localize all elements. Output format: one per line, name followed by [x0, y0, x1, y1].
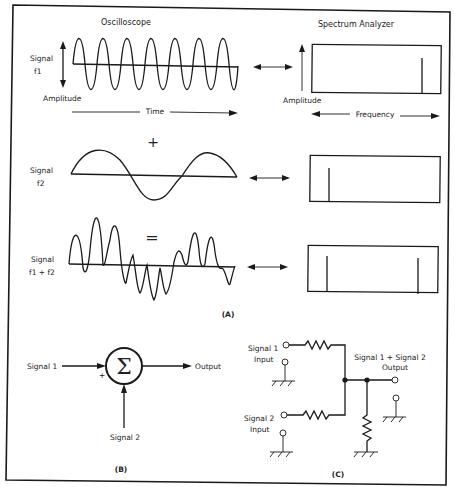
panel-b-label: (B) — [115, 465, 128, 474]
oscilloscope-title: Oscilloscope — [101, 18, 151, 27]
arrow-right-icon — [431, 113, 440, 119]
shunt-resistor — [363, 380, 371, 452]
arrow-right-icon — [280, 264, 288, 270]
sum-baseline — [69, 264, 235, 267]
arrow-right-icon — [229, 110, 238, 116]
input1-ground-terminal — [282, 359, 288, 365]
ground-icon — [270, 436, 293, 457]
arrow-left-icon — [253, 64, 261, 70]
arrow-up-icon — [60, 41, 66, 49]
f2-baseline — [71, 174, 237, 177]
summer-input1-label: Signal 1 — [27, 362, 57, 371]
time-baseline — [73, 64, 238, 67]
circuit-output-label: Signal 1 + Signal 2 — [354, 353, 426, 362]
arrow-right-icon — [282, 175, 290, 181]
signal-f2-label: Signal — [30, 166, 53, 175]
figure-frame — [6, 5, 450, 485]
frequency-label: Frequency — [356, 110, 395, 119]
amplitude-label-scope: Amplitude — [43, 94, 82, 103]
signal-summation-diagram: Oscilloscope Spectrum Analyzer Signal f1… — [0, 0, 455, 487]
circuit-input2-label: Signal 2 — [244, 414, 274, 423]
signal-f1-label: Signal — [30, 54, 53, 63]
summer-input2-label: Signal 2 — [110, 433, 140, 442]
panel-c-label: (C) — [332, 470, 344, 479]
output-ground-terminal — [393, 395, 399, 401]
equals-operator: = — [145, 228, 158, 247]
circuit-input2-sub: Input — [250, 425, 269, 434]
signal-f2-sub: f2 — [37, 179, 45, 188]
input2-ground-terminal — [280, 430, 286, 436]
ground-icon — [272, 365, 295, 386]
spectrum-analyzer-title: Spectrum Analyzer — [318, 20, 395, 29]
signal-sum-label: Signal — [31, 255, 54, 264]
arrow-up-icon — [299, 44, 305, 52]
arrow-right-icon — [285, 64, 293, 70]
circuit-input1-label: Signal 1 — [248, 344, 278, 353]
input1-resistor — [289, 341, 345, 380]
summer-output-label: Output — [195, 362, 221, 371]
sigma-icon: Σ — [116, 354, 132, 379]
arrow-left-icon — [311, 111, 320, 117]
ground-icon — [354, 452, 378, 457]
arrow-left-icon — [247, 264, 255, 270]
arrow-left-icon — [249, 175, 257, 181]
plus-sign: + — [99, 371, 105, 380]
amplitude-label-spectrum: Amplitude — [283, 96, 322, 105]
circuit-input1-sub: Input — [254, 355, 273, 364]
output-terminal — [392, 377, 398, 383]
input2-resistor — [287, 380, 345, 419]
arrow-right-icon — [183, 363, 192, 369]
signal-f1-sub: f1 — [34, 67, 42, 76]
arrow-down-icon — [60, 80, 66, 88]
input2-terminal — [281, 412, 287, 418]
signal-sum-sub: f1 + f2 — [29, 268, 55, 277]
circuit-output-sub: Output — [382, 363, 408, 372]
time-arrow-right — [170, 112, 232, 113]
arrow-up-icon — [121, 384, 127, 393]
plus-operator: + — [147, 134, 159, 150]
panel-a-label: (A) — [222, 310, 235, 319]
arrow-right-icon — [97, 363, 106, 369]
ground-icon — [383, 401, 406, 422]
input1-terminal — [283, 342, 289, 348]
time-label: Time — [145, 107, 165, 116]
